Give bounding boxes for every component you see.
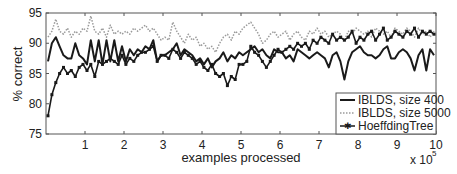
star-marker-icon: [374, 39, 377, 42]
star-marker-icon: [230, 75, 233, 78]
legend-label: IBLDS, size 5000: [358, 106, 451, 120]
star-marker-icon: [245, 60, 248, 63]
x-tick-9: 9: [394, 138, 401, 152]
star-marker-icon: [296, 42, 299, 45]
star-marker-icon: [339, 36, 342, 39]
star-marker-icon: [89, 63, 92, 66]
star-marker-icon: [148, 48, 151, 51]
star-marker-icon: [210, 63, 213, 66]
star-marker-icon: [175, 51, 178, 54]
star-marker-icon: [160, 54, 163, 57]
y-tick-90: 90: [29, 36, 43, 50]
star-marker-icon: [331, 33, 334, 36]
star-marker-icon: [429, 30, 432, 33]
star-marker-icon: [280, 51, 283, 54]
star-marker-icon: [82, 63, 85, 66]
star-marker-icon: [273, 54, 276, 57]
star-marker-icon: [366, 33, 369, 36]
star-marker-icon: [156, 60, 159, 63]
star-marker-icon: [394, 30, 397, 33]
star-marker-icon: [292, 48, 295, 51]
star-marker-icon: [323, 39, 326, 42]
star-marker-icon: [66, 72, 69, 75]
star-marker-icon: [405, 30, 408, 33]
x-tick-1: 1: [82, 138, 89, 152]
star-marker-icon: [86, 69, 89, 72]
star-marker-icon: [397, 33, 400, 36]
star-marker-icon: [97, 60, 100, 63]
star-marker-icon: [390, 36, 393, 39]
y-tick-95: 95: [29, 6, 43, 20]
star-marker-icon: [417, 36, 420, 39]
star-marker-icon: [226, 84, 229, 87]
star-marker-icon: [265, 66, 268, 69]
star-marker-icon: [355, 42, 358, 45]
star-marker-icon: [308, 48, 311, 51]
star-marker-icon: [187, 54, 190, 57]
star-marker-icon: [421, 30, 424, 33]
star-marker-icon: [144, 51, 147, 54]
star-marker-icon: [163, 54, 166, 57]
star-marker-icon: [109, 57, 112, 60]
star-marker-icon: [288, 45, 291, 48]
star-marker-icon: [58, 72, 61, 75]
star-marker-icon: [191, 57, 194, 60]
legend-label: HoeffdingTree: [358, 119, 434, 133]
star-marker-icon: [62, 66, 65, 69]
y-tick-85: 85: [29, 67, 43, 81]
star-marker-icon: [343, 39, 346, 42]
star-marker-icon: [54, 81, 57, 84]
star-marker-icon: [382, 27, 385, 30]
star-marker-icon: [202, 66, 205, 69]
x-multiplier-exponent: 5: [432, 149, 437, 158]
star-marker-icon: [121, 54, 124, 57]
y-tick-75: 75: [29, 127, 43, 141]
star-marker-icon: ✱: [344, 121, 352, 131]
star-marker-icon: [113, 60, 116, 63]
star-marker-icon: [171, 48, 174, 51]
line-chart: 95 90 85 80 75 % correct 1 2 3 4 5 6 7 8…: [0, 0, 457, 174]
star-marker-icon: [425, 33, 428, 36]
star-marker-icon: [433, 33, 436, 36]
star-marker-icon: [183, 51, 186, 54]
star-marker-icon: [222, 72, 225, 75]
star-marker-icon: [218, 75, 221, 78]
legend: IBLDS, size 400 IBLDS, size 5000 ✱ Hoeff…: [336, 93, 451, 134]
star-marker-icon: [319, 36, 322, 39]
star-marker-icon: [316, 42, 319, 45]
x-tick-3: 3: [160, 138, 167, 152]
star-marker-icon: [261, 60, 264, 63]
x-tick-7: 7: [316, 138, 323, 152]
star-marker-icon: [241, 63, 244, 66]
star-marker-icon: [347, 36, 350, 39]
star-marker-icon: [101, 63, 104, 66]
star-marker-icon: [78, 66, 81, 69]
star-marker-icon: [74, 75, 77, 78]
star-marker-icon: [253, 51, 256, 54]
star-marker-icon: [132, 60, 135, 63]
star-marker-icon: [105, 60, 108, 63]
star-marker-icon: [124, 63, 127, 66]
y-tick-80: 80: [29, 97, 43, 111]
star-marker-icon: [234, 78, 237, 81]
x-tick-8: 8: [355, 138, 362, 152]
star-marker-icon: [378, 33, 381, 36]
star-marker-icon: [362, 39, 365, 42]
star-marker-icon: [93, 75, 96, 78]
star-marker-icon: [214, 72, 217, 75]
star-marker-icon: [128, 57, 131, 60]
star-marker-icon: [277, 48, 280, 51]
star-marker-icon: [47, 114, 50, 117]
star-marker-icon: [167, 57, 170, 60]
star-marker-icon: [370, 30, 373, 33]
star-marker-icon: [351, 30, 354, 33]
star-marker-icon: [140, 51, 143, 54]
star-marker-icon: [304, 42, 307, 45]
star-marker-icon: [136, 54, 139, 57]
star-marker-icon: [199, 60, 202, 63]
x-axis-label: examples processed: [181, 150, 300, 165]
star-marker-icon: [238, 63, 241, 66]
star-marker-icon: [386, 39, 389, 42]
star-marker-icon: [152, 45, 155, 48]
legend-label: IBLDS, size 400: [358, 93, 444, 107]
